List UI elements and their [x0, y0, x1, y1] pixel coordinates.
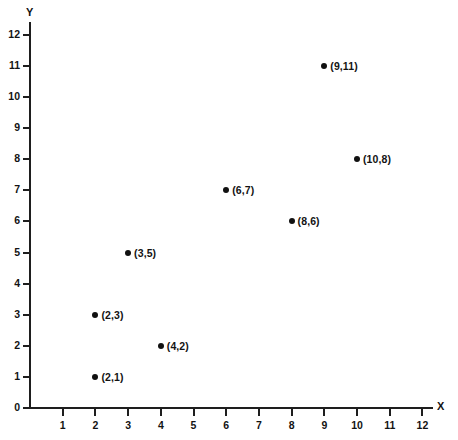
x-tick-mark: [389, 409, 391, 416]
y-tick-mark: [23, 158, 30, 160]
y-tick-mark: [23, 65, 30, 67]
data-point-marker: [158, 343, 164, 349]
x-tick-label: 9: [314, 419, 334, 431]
y-tick-label: 11: [0, 59, 20, 71]
x-tick-label: 2: [85, 419, 105, 431]
x-tick-label: 7: [249, 419, 269, 431]
y-tick-label: 3: [0, 308, 20, 320]
data-point-marker: [92, 374, 98, 380]
data-point-label: (2,3): [101, 309, 123, 321]
x-tick-mark: [258, 409, 260, 416]
x-tick-mark: [193, 409, 195, 416]
x-tick-mark: [356, 409, 358, 416]
data-point-marker: [289, 218, 295, 224]
data-point-label: (2,1): [101, 371, 123, 383]
y-axis-label: Y: [26, 6, 34, 18]
y-tick-label: 7: [0, 183, 20, 195]
x-tick-mark: [421, 409, 423, 416]
y-tick-label: 5: [0, 246, 20, 258]
y-tick-mark: [23, 345, 30, 347]
x-tick-label: 3: [118, 419, 138, 431]
data-point-label: (8,6): [298, 215, 320, 227]
y-tick-mark: [23, 220, 30, 222]
y-axis-line: [29, 22, 31, 409]
x-tick-label: 10: [347, 419, 367, 431]
x-tick-label: 6: [216, 419, 236, 431]
x-axis-line: [29, 407, 433, 409]
x-tick-mark: [94, 409, 96, 416]
y-tick-mark: [23, 283, 30, 285]
x-tick-label: 1: [53, 419, 73, 431]
y-tick-label: 2: [0, 339, 20, 351]
data-point-marker: [354, 156, 360, 162]
x-tick-mark: [323, 409, 325, 416]
y-tick-mark: [23, 96, 30, 98]
y-tick-mark: [23, 376, 30, 378]
y-tick-label: 1: [0, 370, 20, 382]
x-tick-label: 5: [184, 419, 204, 431]
y-tick-mark: [23, 407, 30, 409]
data-point-marker: [92, 312, 98, 318]
data-point-label: (3,5): [134, 247, 156, 259]
data-point-label: (9,11): [330, 60, 357, 72]
y-tick-mark: [23, 127, 30, 129]
data-point-marker: [321, 63, 327, 69]
y-tick-label: 0: [0, 401, 20, 413]
data-point-marker: [223, 187, 229, 193]
data-point-label: (6,7): [232, 184, 254, 196]
data-point-marker: [125, 250, 131, 256]
data-point-label: (4,2): [167, 340, 189, 352]
y-tick-label: 4: [0, 277, 20, 289]
y-tick-mark: [23, 314, 30, 316]
x-tick-label: 4: [151, 419, 171, 431]
y-tick-mark: [23, 34, 30, 36]
x-tick-mark: [62, 409, 64, 416]
y-tick-mark: [23, 189, 30, 191]
y-tick-label: 8: [0, 152, 20, 164]
x-tick-mark: [291, 409, 293, 416]
x-tick-label: 8: [282, 419, 302, 431]
x-tick-label: 11: [380, 419, 400, 431]
x-tick-mark: [160, 409, 162, 416]
x-tick-mark: [225, 409, 227, 416]
data-point-label: (10,8): [363, 153, 391, 165]
y-tick-label: 6: [0, 214, 20, 226]
scatter-plot: Y X 0123456789101112 123456789101112 (2,…: [0, 0, 458, 440]
y-tick-label: 9: [0, 121, 20, 133]
y-tick-label: 12: [0, 28, 20, 40]
y-tick-mark: [23, 252, 30, 254]
x-tick-mark: [127, 409, 129, 416]
y-tick-label: 10: [0, 90, 20, 102]
x-tick-label: 12: [412, 419, 432, 431]
x-axis-label: X: [437, 400, 445, 412]
